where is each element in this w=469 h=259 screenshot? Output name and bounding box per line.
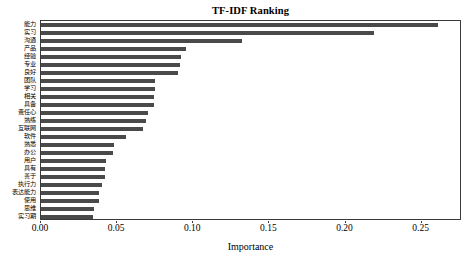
bar [41, 71, 178, 76]
y-tick-label: 实习期 [18, 212, 36, 219]
y-tick-label: 表达能力 [12, 188, 36, 195]
y-tick-label: 善于 [24, 172, 36, 179]
y-tick-label: 专业 [24, 60, 36, 67]
y-tick-label: 具备 [24, 100, 36, 107]
bar [41, 87, 155, 92]
x-axis-title: Importance [40, 241, 461, 253]
bar [41, 143, 114, 148]
x-axis-tick-labels: 0.000.050.100.150.200.25 [0, 221, 469, 241]
bar [41, 23, 438, 28]
y-tick-label: 使用 [24, 196, 36, 203]
y-axis-tick-labels: 能力实习沟通产品经验专业良好团队学习相关具备责任心熟练互联网软件熟悉办公用户具有… [0, 20, 38, 220]
y-tick-label: 执行力 [18, 180, 36, 187]
bar [41, 111, 148, 116]
bar [41, 167, 105, 172]
bar [41, 199, 99, 204]
bar [41, 31, 374, 36]
bar [41, 39, 242, 44]
bar [41, 175, 105, 180]
y-tick-label: 能力 [24, 20, 36, 27]
bar [41, 119, 146, 124]
bar [41, 127, 143, 132]
bar [41, 47, 186, 52]
chart-title: TF-IDF Ranking [40, 4, 461, 17]
x-tick-label: 0.15 [260, 223, 277, 234]
y-tick-label: 实习 [24, 28, 36, 35]
y-tick-label: 互联网 [18, 124, 36, 131]
bars-layer [41, 21, 460, 219]
y-tick-label: 熟悉 [24, 140, 36, 147]
bar [41, 191, 99, 196]
bar [41, 63, 180, 68]
bar [41, 95, 154, 100]
x-tick-label: 0.25 [412, 223, 429, 234]
plot-area [40, 20, 461, 220]
y-tick-label: 经验 [24, 52, 36, 59]
y-tick-label: 用户 [24, 156, 36, 163]
y-tick-label: 办公 [24, 148, 36, 155]
bar [41, 151, 113, 156]
bar [41, 135, 126, 140]
bar [41, 215, 93, 220]
x-tick-label: 0.20 [336, 223, 353, 234]
y-tick-label: 产品 [24, 44, 36, 51]
y-tick-label: 相关 [24, 92, 36, 99]
bar [41, 79, 155, 84]
y-tick-label: 良好 [24, 68, 36, 75]
y-tick-label: 责任心 [18, 108, 36, 115]
y-tick-label: 软件 [24, 132, 36, 139]
y-tick-label: 沟通 [24, 36, 36, 43]
x-tick-label: 0.10 [184, 223, 201, 234]
y-tick-label: 熟练 [24, 116, 36, 123]
bar [41, 183, 102, 188]
tfidf-ranking-figure: TF-IDF Ranking 能力实习沟通产品经验专业良好团队学习相关具备责任心… [0, 0, 469, 259]
y-tick-label: 思维 [24, 204, 36, 211]
y-tick-label: 团队 [24, 76, 36, 83]
bar [41, 159, 106, 164]
x-tick-label: 0.00 [32, 223, 49, 234]
bar [41, 55, 181, 60]
x-tick-label: 0.05 [108, 223, 125, 234]
bar [41, 207, 94, 212]
bar [41, 103, 154, 108]
y-tick-label: 学习 [24, 84, 36, 91]
y-tick-label: 具有 [24, 164, 36, 171]
